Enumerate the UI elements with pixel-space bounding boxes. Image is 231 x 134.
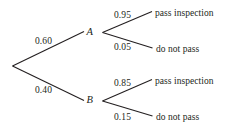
probability-label-b-pass: 0.85 [114,79,131,89]
probability-label-a-fail: 0.05 [114,43,131,53]
probability-label-b-fail: 0.15 [114,113,131,123]
node-label-b: B [87,95,93,106]
probability-label-branch-b: 0.40 [35,86,52,96]
outcome-label-a-pass: pass inspection [155,9,214,19]
outcome-label-a-fail: do not pass [156,45,199,55]
probability-label-branch-a: 0.60 [35,37,52,47]
probability-label-a-pass: 0.95 [114,11,131,21]
probability-tree-diagram: 0.60 0.40 A B 0.95 0.05 0.85 0.15 pass i… [0,0,231,134]
outcome-label-b-fail: do not pass [156,113,199,123]
node-label-a: A [87,27,93,38]
branch-line-root-to-b [13,66,85,101]
outcome-label-b-pass: pass inspection [155,77,214,87]
